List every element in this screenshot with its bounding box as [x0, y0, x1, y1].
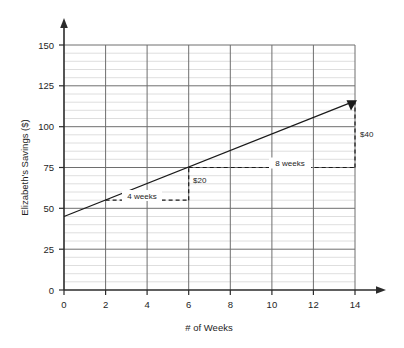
x-tick-label-8: 8	[228, 299, 233, 310]
x-tick-label-6: 6	[186, 299, 191, 310]
annotation-label-20: $20	[193, 176, 207, 185]
annotation-label-8-weeks: 8 weeks	[275, 159, 304, 168]
y-tick-label-75: 75	[43, 162, 54, 173]
y-tick-label-50: 50	[43, 203, 54, 214]
y-tick-label-150: 150	[38, 40, 54, 51]
x-tick-label-14: 14	[350, 299, 361, 310]
y-axis-title: Elizabeth's Savings ($)	[19, 119, 30, 215]
chart-container: 150 125 100 75 50 25 0 0 2 4 6 8 10 12 1…	[0, 0, 404, 348]
x-tick-label-4: 4	[144, 299, 149, 310]
x-tick-label-10: 10	[267, 299, 278, 310]
annotation-label-40: $40	[360, 130, 374, 139]
chart-background	[0, 0, 404, 348]
y-tick-label-25: 25	[43, 244, 54, 255]
y-tick-label-125: 125	[38, 80, 54, 91]
y-tick-label-100: 100	[38, 121, 54, 132]
y-tick-label-0: 0	[49, 285, 54, 296]
x-tick-label-12: 12	[308, 299, 319, 310]
x-tick-label-2: 2	[103, 299, 108, 310]
x-axis-title: # of Weeks	[185, 322, 233, 333]
savings-line-chart: 150 125 100 75 50 25 0 0 2 4 6 8 10 12 1…	[0, 0, 404, 348]
x-tick-label-0: 0	[61, 299, 66, 310]
annotation-label-4-weeks: 4 weeks	[127, 192, 156, 201]
